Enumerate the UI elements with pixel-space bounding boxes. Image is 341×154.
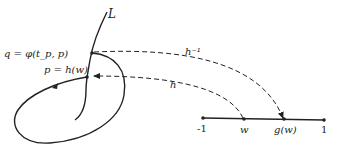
interval-segment bbox=[203, 118, 324, 120]
point-q bbox=[90, 51, 94, 55]
diagram-canvas: L q = φ(t_p, p) p = h(w) h⁻¹ h -1 w g(w)… bbox=[0, 0, 341, 154]
label-h-inverse: h⁻¹ bbox=[185, 46, 201, 57]
point-p bbox=[85, 75, 89, 79]
point-minus-one bbox=[201, 116, 205, 120]
label-h: h bbox=[170, 79, 176, 90]
label-minus-one: -1 bbox=[197, 123, 207, 134]
label-q: q = φ(t_p, p) bbox=[4, 48, 68, 60]
point-gw bbox=[282, 117, 286, 121]
label-w: w bbox=[240, 124, 249, 135]
label-one: 1 bbox=[321, 124, 327, 135]
label-l: L bbox=[107, 7, 116, 21]
point-w bbox=[242, 117, 246, 121]
label-gw: g(w) bbox=[274, 124, 297, 135]
label-p: p = h(w) bbox=[44, 64, 88, 75]
point-one bbox=[322, 118, 326, 122]
